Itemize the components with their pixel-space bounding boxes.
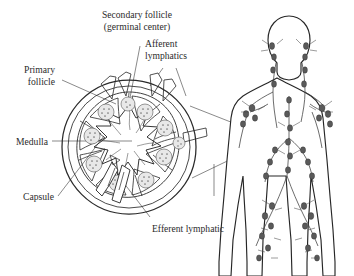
germinal-center-6 (86, 156, 102, 172)
label-primary-follicle-line1: Primary (24, 64, 55, 75)
germinal-center-2 (157, 120, 173, 136)
germinal-center-1 (137, 104, 153, 120)
body-outline (219, 78, 335, 276)
label-secondary-follicle-line2: (germinal center) (104, 21, 170, 33)
afferent-lymphatic-vessels (101, 72, 207, 142)
label-efferent-lymphatic: Efferent lymphatic (152, 223, 224, 234)
human-lymphatic-system-figure (219, 16, 335, 276)
germinal-center-9 (121, 97, 135, 111)
label-primary-follicle-line2: follicle (28, 76, 55, 87)
germinal-center-8 (98, 104, 114, 120)
label-afferent-line2: lymphatics (145, 50, 187, 61)
germinal-center-10 (173, 137, 185, 149)
label-secondary-follicle-line1: Secondary follicle (102, 9, 172, 20)
medullary-cord-6 (106, 149, 121, 160)
germinal-center-7 (84, 128, 100, 144)
medullary-cord-7 (100, 140, 120, 143)
germinal-centers (84, 97, 185, 191)
germinal-center-3 (156, 149, 172, 165)
leader-afferent-2 (176, 68, 186, 96)
germinal-center-4 (138, 172, 154, 188)
lymph-node-illustration: Secondary follicle (germinal center) Aff… (0, 0, 354, 276)
label-medulla: Medulla (16, 136, 49, 147)
medullary-cord-4 (134, 151, 145, 165)
medullary-cord-3 (137, 143, 154, 146)
label-capsule: Capsule (23, 191, 54, 202)
label-afferent-line1: Afferent (145, 38, 178, 49)
